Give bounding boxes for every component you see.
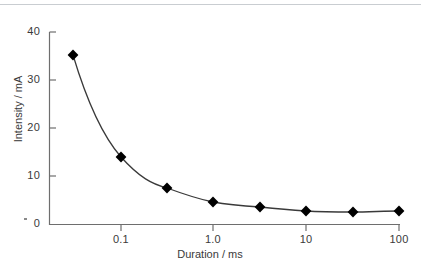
chart-figure: 40 30 20 10 0 0.1 1.0 10 100 Duration / …	[0, 0, 421, 268]
y-axis-title: Intensity / mA	[12, 54, 24, 164]
data-point-marker	[348, 207, 359, 218]
x-tick-label-10: 10	[286, 233, 326, 245]
y-tick-label-10: 10	[14, 169, 40, 181]
data-point-markers	[68, 50, 405, 218]
y-tick-label-40: 40	[14, 25, 40, 37]
plot-area	[0, 0, 421, 268]
stray-tick-mark	[24, 218, 27, 220]
x-tick-label-0.1: 0.1	[101, 233, 141, 245]
x-tick-label-1.0: 1.0	[193, 233, 233, 245]
x-axis-ticks	[121, 225, 399, 232]
x-axis-title: Duration / ms	[130, 248, 290, 260]
data-point-marker	[301, 206, 312, 217]
data-curve	[73, 55, 399, 212]
y-axis-ticks	[50, 32, 57, 176]
data-point-marker	[394, 206, 405, 217]
data-point-marker	[68, 50, 79, 61]
data-point-marker	[208, 197, 219, 208]
x-tick-label-100: 100	[379, 233, 419, 245]
y-tick-label-0: 0	[14, 217, 40, 229]
data-point-marker	[255, 202, 266, 213]
data-point-marker	[162, 183, 173, 194]
